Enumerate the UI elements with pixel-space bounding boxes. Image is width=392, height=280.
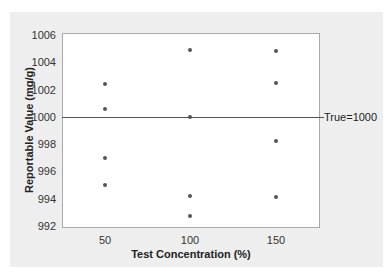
y-axis-label: Reportable Value (mg/g) xyxy=(23,67,35,193)
plot-area xyxy=(62,33,320,228)
y-tick-label: 992 xyxy=(16,220,56,232)
reference-line xyxy=(62,117,324,118)
data-point xyxy=(103,82,107,86)
data-point xyxy=(103,107,107,111)
x-tick-label: 100 xyxy=(170,234,210,246)
data-point xyxy=(103,156,107,160)
y-tick-label: 998 xyxy=(16,138,56,150)
x-tick-label: 150 xyxy=(256,234,296,246)
reference-line-label: True=1000 xyxy=(324,111,377,123)
y-tick-label: 996 xyxy=(16,165,56,177)
x-axis-label: Test Concentration (%) xyxy=(131,248,251,260)
data-point xyxy=(274,195,278,199)
data-point xyxy=(188,214,192,218)
data-point xyxy=(188,115,192,119)
data-point xyxy=(274,49,278,53)
x-tick-label: 50 xyxy=(85,234,125,246)
data-point xyxy=(274,139,278,143)
y-tick-label: 1004 xyxy=(16,56,56,68)
y-tick-label: 994 xyxy=(16,193,56,205)
y-tick-label: 1006 xyxy=(16,29,56,41)
y-tick-label: 1002 xyxy=(16,84,56,96)
data-point xyxy=(274,81,278,85)
y-tick-label: 1000 xyxy=(16,111,56,123)
data-point xyxy=(103,183,107,187)
data-point xyxy=(188,48,192,52)
data-point xyxy=(188,194,192,198)
